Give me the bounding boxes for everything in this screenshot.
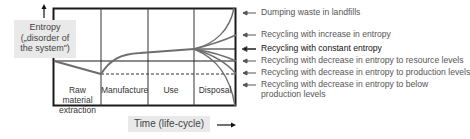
x-axis-label: Time (life-cycle)	[128, 116, 210, 132]
y-axis-label-line: the system")	[14, 43, 76, 54]
legend-arrows	[242, 11, 256, 87]
phase-label: Manufacture	[101, 85, 148, 95]
legend-item-increase: Recycling with increase in entropy	[261, 30, 391, 40]
legend-item-production-levels: Recycling with decrease in entropy to pr…	[261, 68, 470, 78]
legend-item-below-production: Recycling with decrease in entropy to be…	[261, 80, 428, 99]
legend-item-constant: Recycling with constant entropy	[261, 44, 382, 54]
phase-label: extraction	[54, 105, 101, 115]
phase-manufacture: Manufacture	[101, 85, 148, 95]
legend-item-resource-levels: Recycling with decrease in entropy to re…	[261, 56, 464, 66]
phase-label: Disposal	[194, 85, 236, 95]
x-axis-arrow-icon	[217, 123, 236, 128]
phase-label: Raw material	[54, 85, 101, 105]
y-axis-label-line: („disorder of	[14, 33, 76, 44]
phase-disposal: Disposal	[194, 85, 236, 95]
y-axis-label: Entropy („disorder of the system")	[14, 20, 76, 58]
phase-label: Use	[148, 85, 194, 95]
phase-use: Use	[148, 85, 194, 95]
phase-raw-material: Raw material extraction	[54, 85, 101, 115]
legend-label: production levels	[261, 90, 428, 100]
legend-item-dumping: Dumping waste in landfills	[261, 8, 360, 18]
y-axis-arrow-icon	[42, 4, 47, 18]
y-axis-label-line: Entropy	[14, 22, 76, 33]
